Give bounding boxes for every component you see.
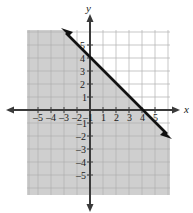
y-axis-label: y	[86, 3, 91, 14]
x-tick-label-5: 5	[153, 113, 158, 123]
y-tick-label-neg3: –3	[76, 145, 86, 155]
y-tick-label-neg4: –4	[76, 158, 86, 168]
y-tick-label-4: 4	[80, 54, 85, 64]
x-tick-label-3: 3	[127, 113, 132, 123]
x-tick-label-1: 1	[101, 113, 106, 123]
x-tick-label-neg4: –4	[46, 113, 56, 123]
x-tick-label-neg3: –3	[59, 113, 69, 123]
y-tick-label-neg2: –2	[76, 132, 86, 142]
x-tick-label-4: 4	[140, 113, 145, 123]
y-tick-label-3: 3	[80, 67, 85, 77]
coordinate-plane	[0, 0, 193, 213]
y-tick-label-neg5: –5	[76, 171, 86, 181]
x-axis-label: x	[184, 104, 189, 115]
y-tick-label-1: 1	[82, 93, 87, 103]
y-tick-label-5: 5	[80, 41, 85, 51]
graph-figure: –5 –4 –3 –2 –1 1 2 3 4 5 5 4 3 2 1 –1 –2…	[0, 0, 193, 213]
x-tick-label-neg5: –5	[33, 113, 43, 123]
y-tick-label-2: 2	[80, 80, 85, 90]
x-tick-label-2: 2	[114, 113, 119, 123]
y-tick-label-neg1: –1	[77, 119, 87, 129]
